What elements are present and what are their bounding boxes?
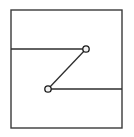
upper-node: [83, 46, 89, 52]
figure-canvas: [0, 0, 134, 137]
geometric-figure-svg: [0, 0, 134, 137]
lower-node: [45, 86, 51, 92]
diagonal-segment: [48, 49, 86, 89]
